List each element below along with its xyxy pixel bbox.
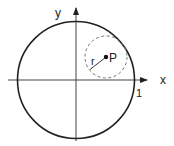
x-axis-label: x [160,73,166,87]
point-p-marker [104,55,108,59]
point-p-label: P [109,51,117,65]
radius-label: r [91,55,95,67]
unit-mark-label: 1 [136,87,142,99]
y-axis-label: y [55,6,61,20]
diagram-canvas: y x P r 1 [0,0,174,146]
